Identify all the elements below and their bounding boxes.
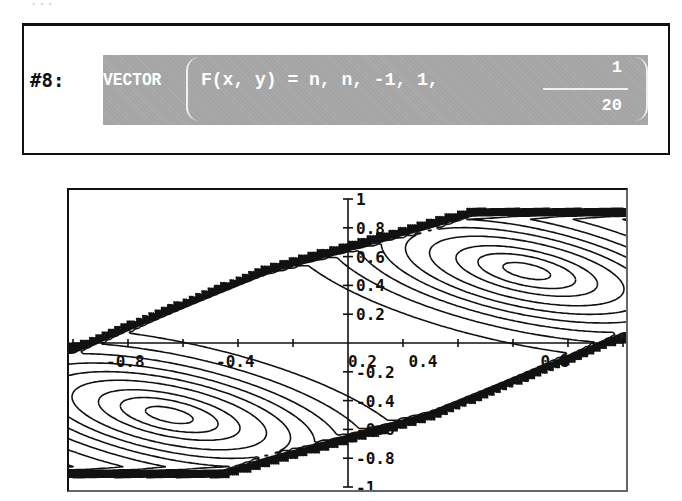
y-tick-label: -0.6 (356, 420, 395, 439)
plot-window[interactable]: -0.8-0.40.20.40.810.80.60.40.2-0.2-0.4-0… (67, 188, 628, 492)
y-tick-label: 0.8 (356, 219, 385, 238)
function-arguments: F(x, y) = n, n, -1, 1, (201, 70, 439, 90)
function-name: VECTOR (103, 70, 161, 90)
y-tick-label: -1 (356, 478, 375, 490)
x-tick-label: 0.8 (541, 352, 570, 371)
selected-expression[interactable]: VECTOR F(x, y) = n, n, -1, 1, 1 20 (103, 55, 648, 125)
fraction-bar (543, 88, 628, 90)
left-paren-icon (186, 57, 200, 121)
y-tick-label: -0.4 (356, 392, 395, 411)
fraction-denominator: 20 (602, 96, 622, 115)
x-tick-label: 0.4 (409, 352, 438, 371)
y-tick-label: 0.4 (356, 276, 385, 295)
y-tick-label: 1 (356, 190, 366, 209)
contour-plot: -0.8-0.40.20.40.810.80.60.40.2-0.2-0.4-0… (69, 190, 626, 490)
cropped-caption: ... (30, 0, 55, 8)
y-tick-label: -0.8 (356, 449, 395, 468)
x-tick-label: -0.8 (106, 352, 145, 371)
axes (73, 199, 623, 487)
expression-panel: #8: VECTOR F(x, y) = n, n, -1, 1, 1 20 (22, 23, 670, 155)
y-tick-label: 0.2 (356, 305, 385, 324)
y-tick-label: -0.2 (356, 363, 395, 382)
y-tick-label: 0.6 (356, 248, 385, 267)
expression-label: #8: (30, 69, 64, 91)
step-fraction: 1 20 (543, 58, 628, 122)
fraction-numerator: 1 (612, 58, 622, 77)
x-tick-label: -0.4 (216, 352, 255, 371)
right-paren-icon (634, 57, 648, 121)
